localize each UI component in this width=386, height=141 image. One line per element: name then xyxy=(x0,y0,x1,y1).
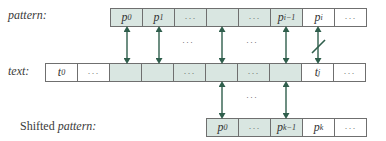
match-arrows xyxy=(0,0,386,141)
